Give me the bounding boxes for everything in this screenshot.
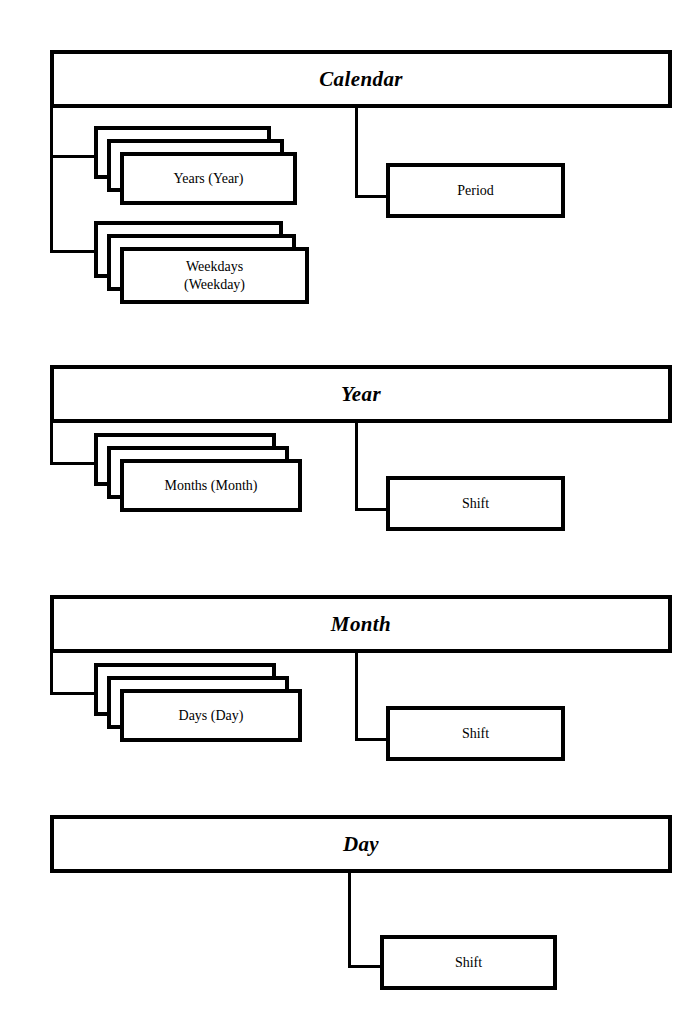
class-header-calendar[interactable]: Calendar (50, 50, 672, 108)
multiplicity-box-days[interactable]: Days (Day) (94, 663, 309, 749)
label-weekdays: Weekdays (Weekday) (184, 258, 245, 293)
class-box-shift-year[interactable]: Shift (386, 476, 565, 531)
label-days: Days (Day) (179, 707, 244, 725)
class-box-shift-day[interactable]: Shift (380, 935, 557, 990)
class-header-year[interactable]: Year (50, 365, 672, 423)
connector-branch-weekdays (50, 250, 96, 253)
class-box-period[interactable]: Period (386, 163, 565, 218)
connector-trunk-month (50, 653, 53, 695)
class-title-month: Month (331, 612, 391, 637)
label-months: Months (Month) (165, 477, 258, 495)
stack-layer-front: Years (Year) (120, 152, 297, 205)
class-title-year: Year (341, 382, 381, 407)
connector-vertical-shift-year (355, 423, 358, 511)
connector-trunk-year (50, 423, 53, 465)
connector-horizontal-shift-month (355, 738, 389, 741)
multiplicity-box-months[interactable]: Months (Month) (94, 433, 309, 519)
connector-vertical-period (355, 108, 358, 198)
class-diagram-canvas: Calendar Years (Year) Weekdays (Weekday) (0, 0, 700, 1030)
class-header-month[interactable]: Month (50, 595, 672, 653)
connector-horizontal-shift-day (348, 965, 383, 968)
class-header-day[interactable]: Day (50, 815, 672, 873)
connector-branch-years (50, 155, 96, 158)
connector-trunk-calendar (50, 108, 53, 253)
class-title-calendar: Calendar (319, 67, 403, 92)
connector-branch-months (50, 462, 96, 465)
label-shift-day: Shift (455, 954, 482, 972)
stack-layer-front: Months (Month) (120, 459, 302, 512)
connector-branch-days (50, 692, 96, 695)
label-shift-month: Shift (462, 725, 489, 743)
label-shift-year: Shift (462, 495, 489, 513)
connector-vertical-shift-day (348, 873, 351, 968)
stack-layer-front: Days (Day) (120, 689, 302, 742)
connector-vertical-shift-month (355, 653, 358, 741)
label-period: Period (457, 182, 494, 200)
label-years: Years (Year) (174, 170, 244, 188)
stack-layer-front: Weekdays (Weekday) (120, 247, 309, 304)
class-title-day: Day (343, 832, 379, 857)
connector-horizontal-shift-year (355, 508, 389, 511)
class-box-shift-month[interactable]: Shift (386, 706, 565, 761)
connector-horizontal-period (355, 195, 389, 198)
multiplicity-box-years[interactable]: Years (Year) (94, 126, 304, 212)
multiplicity-box-weekdays[interactable]: Weekdays (Weekday) (94, 221, 316, 311)
